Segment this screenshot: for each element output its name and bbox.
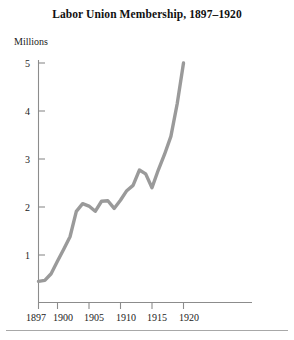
x-tick-label: 1900 [53,312,73,323]
x-tick-label: 1897 [26,312,46,323]
y-tick-label: 5 [25,58,30,69]
x-tick-label: 1905 [84,312,104,323]
chart-figure: Labor Union Membership, 1897–1920 Millio… [0,0,294,340]
x-tick-label: 1920 [179,312,199,323]
x-axis-ticks [39,303,184,310]
x-axis-tick-labels: 1897 1900 1905 1910 1915 1920 [26,312,199,323]
axes [39,60,253,303]
y-tick-label: 1 [25,250,30,261]
data-line-union-membership [39,63,184,281]
x-tick-label: 1910 [116,312,136,323]
y-axis-ticks [39,63,46,255]
plot-area: 5 4 3 2 1 1897 1900 1905 1910 1915 1920 [0,0,294,340]
x-tick-label: 1915 [147,312,167,323]
bottom-divider-rule [6,330,288,331]
y-tick-label: 4 [25,106,30,117]
y-tick-label: 2 [25,202,30,213]
y-tick-label: 3 [25,154,30,165]
y-axis-tick-labels: 5 4 3 2 1 [25,58,30,261]
